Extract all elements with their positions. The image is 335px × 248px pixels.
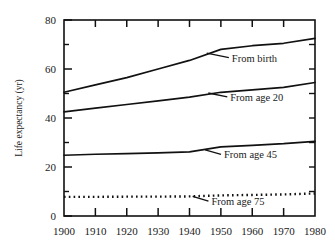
x-tick-label: 1920 bbox=[116, 225, 139, 237]
x-tick-label: 1950 bbox=[210, 225, 233, 237]
y-tick-label: 0 bbox=[51, 210, 57, 222]
x-tick-label: 1910 bbox=[84, 225, 107, 237]
x-tick-label: 1980 bbox=[304, 225, 327, 237]
chart-figure: 020406080 190019101920193019401950196019… bbox=[0, 0, 335, 248]
y-axis-title: Life expectancy (yr) bbox=[14, 79, 25, 157]
annotation-label-from-birth: From birth bbox=[232, 53, 278, 64]
annotation-label-from-age-45: From age 45 bbox=[224, 149, 277, 160]
y-tick-label: 80 bbox=[45, 14, 57, 26]
x-tick-label: 1930 bbox=[147, 225, 170, 237]
x-tick-label: 1960 bbox=[241, 225, 264, 237]
x-tick-label: 1900 bbox=[53, 225, 76, 237]
life-expectancy-line-chart: 020406080 190019101920193019401950196019… bbox=[0, 0, 335, 248]
y-tick-label: 60 bbox=[45, 63, 57, 75]
y-tick-label: 20 bbox=[45, 161, 57, 173]
y-tick-label: 40 bbox=[45, 112, 57, 124]
annotation-label-from-age-75: From age 75 bbox=[211, 196, 264, 207]
x-tick-label: 1970 bbox=[273, 225, 296, 237]
x-axis-tick-labels: 190019101920193019401950196019701980 bbox=[53, 225, 327, 237]
plot-frame bbox=[64, 20, 315, 216]
y-axis-tick-labels: 020406080 bbox=[45, 14, 57, 222]
x-tick-label: 1940 bbox=[179, 225, 202, 237]
annotation-label-from-age-20: From age 20 bbox=[230, 92, 283, 103]
